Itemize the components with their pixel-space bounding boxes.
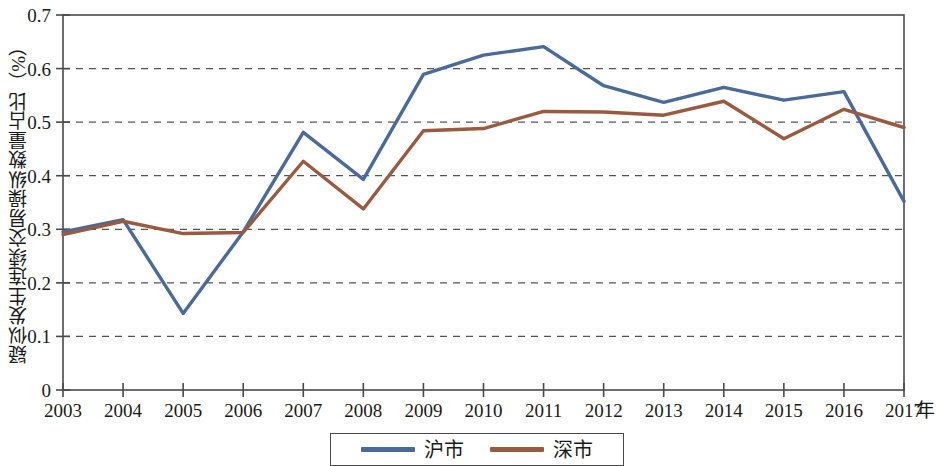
y-axis-tick-labels: 00.10.20.30.40.50.60.7 — [27, 5, 51, 401]
x-tick-label: 2004 — [104, 400, 143, 421]
y-tick-label: 0 — [42, 380, 52, 401]
y-tick-label: 0.7 — [27, 5, 51, 26]
series-line-primary — [63, 47, 904, 314]
y-tick-label: 0.2 — [27, 273, 51, 294]
line-chart-plot: 00.10.20.30.40.50.60.7 20032004200520062… — [0, 0, 941, 466]
legend-color-swatch — [490, 447, 544, 452]
x-tick-label: 2005 — [164, 400, 202, 421]
legend-label: 沪市 — [424, 440, 464, 460]
x-tick-label: 2011 — [525, 400, 562, 421]
gridlines — [63, 69, 904, 337]
legend-item-2[interactable]: 深市 — [490, 440, 593, 460]
y-tick-label: 0.3 — [27, 219, 51, 240]
x-tick-label: 2006 — [224, 400, 262, 421]
x-axis-unit-label: 年 — [916, 400, 935, 421]
chart-legend: 沪市深市 — [330, 433, 624, 466]
x-axis-tick-labels: 2003200420052006200720082009201020112012… — [44, 400, 923, 421]
y-tick-label: 0.6 — [27, 59, 51, 80]
x-tick-label: 2010 — [465, 400, 503, 421]
y-tick-label: 0.4 — [27, 166, 51, 187]
chart-figure: 疑似发生连续交易操纵数量占比（%） 00.10.20.30.40.50.60.7… — [0, 0, 941, 466]
x-tick-label: 2008 — [344, 400, 382, 421]
plot-border — [63, 15, 904, 390]
data-series — [63, 47, 904, 314]
legend-color-swatch — [361, 447, 415, 452]
x-tick-label: 2015 — [765, 400, 803, 421]
plot-frame — [63, 15, 904, 390]
x-tick-label: 2009 — [404, 400, 442, 421]
x-tick-label: 2014 — [705, 400, 744, 421]
x-tick-label: 2003 — [44, 400, 82, 421]
x-tick-label: 2012 — [585, 400, 623, 421]
legend-item-1[interactable]: 沪市 — [361, 440, 464, 460]
x-tick-label: 2007 — [284, 400, 322, 421]
legend-label: 深市 — [553, 440, 593, 460]
series-line-secondary — [63, 101, 904, 234]
y-tick-label: 0.1 — [27, 326, 51, 347]
x-tick-label: 2016 — [825, 400, 863, 421]
x-tick-label: 2013 — [645, 400, 683, 421]
y-tick-label: 0.5 — [27, 112, 51, 133]
